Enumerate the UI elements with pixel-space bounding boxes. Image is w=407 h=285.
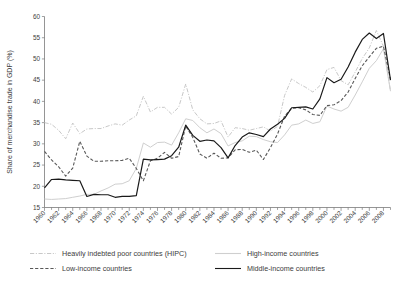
x-tick-label: 1968: [88, 209, 103, 224]
x-tick-label-group: 1968: [88, 209, 103, 224]
x-tick-label-group: 1984: [201, 209, 216, 224]
x-tick-label-group: 1982: [187, 209, 202, 224]
x-tick-label-group: 1960: [31, 209, 46, 224]
x-tick-label: 2002: [328, 209, 343, 224]
x-tick-label-group: 2006: [356, 209, 371, 224]
x-tick-label: 1992: [257, 209, 272, 224]
chart-figure: 1520253035404550556019601962196419661968…: [0, 0, 407, 285]
x-tick-label: 1962: [46, 209, 61, 224]
x-tick-label: 2006: [356, 209, 371, 224]
x-tick-label: 1980: [173, 209, 188, 224]
series-line-3: [45, 33, 391, 197]
x-tick-label-group: 1964: [60, 209, 75, 224]
y-tick-label: 30: [33, 140, 41, 147]
x-tick-label-group: 1998: [300, 209, 315, 224]
x-tick-label: 1970: [102, 209, 117, 224]
x-tick-label: 1960: [31, 209, 46, 224]
x-tick-label: 1974: [130, 209, 145, 224]
x-tick-label: 1976: [144, 209, 159, 224]
y-tick-label: 15: [33, 204, 41, 211]
x-tick-label: 1984: [201, 209, 216, 224]
x-tick-label-group: 1972: [116, 209, 131, 224]
x-tick-label-group: 1994: [271, 209, 286, 224]
y-tick-label: 20: [33, 183, 41, 190]
line-chart-svg: 1520253035404550556019601962196419661968…: [0, 0, 407, 285]
y-tick-label: 45: [33, 76, 41, 83]
x-tick-label-group: 1996: [286, 209, 301, 224]
x-tick-label-group: 1992: [257, 209, 272, 224]
x-tick-label: 1966: [74, 209, 89, 224]
y-tick-label: 50: [33, 55, 41, 62]
series-line-2: [45, 46, 391, 181]
chart-series: [45, 31, 391, 200]
axis-lines: [45, 17, 391, 208]
x-tick-label-group: 1976: [144, 209, 159, 224]
series-line-1: [45, 49, 391, 200]
x-tick-label: 2004: [342, 209, 357, 224]
x-tick-label-group: 2004: [342, 209, 357, 224]
x-tick-label: 2000: [314, 209, 329, 224]
legend-label-1: High-income countries: [247, 249, 319, 258]
x-tick-label-group: 1962: [46, 209, 61, 224]
y-axis-title: Share of merchandise trade in GDP (%): [6, 50, 14, 174]
x-tick-label-group: 1970: [102, 209, 117, 224]
y-tick-label: 35: [33, 119, 41, 126]
y-tick-label: 60: [33, 13, 41, 20]
x-tick-label: 2008: [370, 209, 385, 224]
x-tick-label: 1986: [215, 209, 230, 224]
chart-legend: Heavily indebted poor countries (HIPC)Hi…: [30, 249, 325, 273]
y-tick-label: 40: [33, 98, 41, 105]
x-tick-label: 1982: [187, 209, 202, 224]
legend-label-0: Heavily indebted poor countries (HIPC): [62, 249, 187, 258]
x-tick-label: 1964: [60, 209, 75, 224]
x-tick-label-group: 1986: [215, 209, 230, 224]
x-tick-label-group: 2000: [314, 209, 329, 224]
y-axis-label: Share of merchandise trade in GDP (%): [6, 50, 14, 174]
x-tick-label: 1998: [300, 209, 315, 224]
x-tick-label: 1988: [229, 209, 244, 224]
y-tick-label: 25: [33, 161, 41, 168]
series-line-0: [45, 31, 391, 139]
x-tick-label: 1972: [116, 209, 131, 224]
x-tick-label: 1994: [271, 209, 286, 224]
x-tick-label-group: 1978: [159, 209, 174, 224]
x-tick-label-group: 1990: [243, 209, 258, 224]
legend-label-2: Low-income countries: [62, 264, 132, 273]
x-tick-label-group: 1974: [130, 209, 145, 224]
x-tick-label-group: 1966: [74, 209, 89, 224]
x-tick-label-group: 2002: [328, 209, 343, 224]
y-tick-label: 55: [33, 34, 41, 41]
x-tick-label-group: 2008: [370, 209, 385, 224]
legend-label-3: Middle-income countries: [247, 264, 325, 273]
x-tick-label: 1990: [243, 209, 258, 224]
x-tick-label-group: 1988: [229, 209, 244, 224]
x-tick-label-group: 1980: [173, 209, 188, 224]
x-tick-label: 1978: [159, 209, 174, 224]
x-tick-label: 1996: [286, 209, 301, 224]
